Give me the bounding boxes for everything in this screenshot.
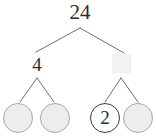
edge-left-to-leaf-0	[20, 78, 37, 102]
edge-right-to-leaf-2	[105, 78, 121, 102]
leaf-circle-3[interactable]: 2	[90, 103, 120, 133]
edge-root-to-right	[80, 28, 124, 53]
edge-left-to-leaf-1	[37, 78, 54, 102]
leaf-circle-1[interactable]	[3, 103, 33, 133]
edge-right-to-leaf-3	[121, 78, 138, 102]
root-node-value: 24	[60, 2, 100, 23]
edge-root-to-left	[36, 28, 80, 52]
right-child-blank-box[interactable]	[112, 54, 131, 73]
leaf-circle-4[interactable]	[123, 103, 153, 133]
leaf-circle-2[interactable]	[40, 103, 70, 133]
factor-tree-diagram: 24 4 2	[0, 0, 156, 138]
left-child-node-value: 4	[22, 55, 52, 74]
